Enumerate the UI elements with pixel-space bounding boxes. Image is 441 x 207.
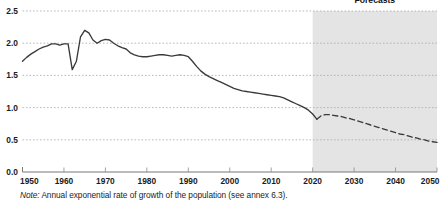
chart-canvas: 0.00.51.01.52.02.5 195019601970198019902… [0, 0, 441, 207]
x-tick-label-2020: 2020 [303, 176, 322, 186]
growth-rate-chart: 0.00.51.01.52.02.5 195019601970198019902… [0, 0, 441, 207]
chart-note: Note: Annual exponential rate of growth … [20, 190, 288, 201]
x-tick-label-2010: 2010 [262, 176, 281, 186]
x-tick-label-1980: 1980 [138, 176, 157, 186]
x-tick-label-1960: 1960 [55, 176, 74, 186]
x-tick-label-2050: 2050 [421, 176, 440, 186]
note-label: Note: [20, 190, 40, 200]
y-tick-label-1.5: 1.5 [6, 70, 18, 80]
y-tick-label-1.0: 1.0 [6, 103, 18, 113]
forecasts-label: Forecasts [355, 0, 396, 5]
chart-annotations: Forecasts [355, 0, 396, 5]
y-tick-label-2.0: 2.0 [6, 38, 18, 48]
x-tick-label-1950: 1950 [20, 176, 39, 186]
x-tick-label-1990: 1990 [179, 176, 198, 186]
x-tick-label-1970: 1970 [96, 176, 115, 186]
x-tick-label-2040: 2040 [386, 176, 405, 186]
y-tick-label-0.0: 0.0 [6, 167, 18, 177]
forecast-band [313, 11, 437, 172]
note-body: Annual exponential rate of growth of the… [40, 190, 288, 200]
y-tick-label-2.5: 2.5 [6, 6, 18, 16]
forecast-shaded-region [313, 11, 437, 172]
y-tick-label-0.5: 0.5 [6, 135, 18, 145]
x-tick-label-2000: 2000 [220, 176, 239, 186]
x-tick-label-2030: 2030 [345, 176, 364, 186]
